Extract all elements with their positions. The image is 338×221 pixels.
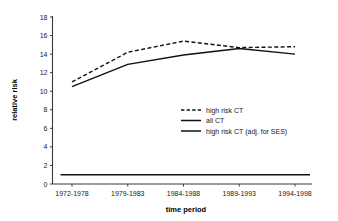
y-tick-label: 12 xyxy=(40,69,48,76)
y-tick-label: 10 xyxy=(40,88,48,95)
y-axis-title: relative risk xyxy=(10,78,19,121)
y-tick-label: 18 xyxy=(40,14,48,21)
legend-label-2: all CT xyxy=(206,117,225,124)
y-tick-label: 14 xyxy=(40,51,48,58)
y-tick-label: 4 xyxy=(44,143,48,150)
x-axis-title: time period xyxy=(166,205,207,214)
line-chart: 024681012141618 1972-19781979-19831984-1… xyxy=(0,0,338,221)
x-tick-label: 1979-1983 xyxy=(111,190,145,197)
y-tick-label: 8 xyxy=(44,106,48,113)
chart-container: 024681012141618 1972-19781979-19831984-1… xyxy=(0,0,338,221)
x-tick-label: 1994-1998 xyxy=(278,190,312,197)
y-tick-label: 2 xyxy=(44,162,48,169)
x-tick-label: 1972-1978 xyxy=(55,190,89,197)
x-tick-label: 1984-1988 xyxy=(167,190,201,197)
y-tick-label: 6 xyxy=(44,125,48,132)
legend-label-1: high risk CT xyxy=(206,107,244,115)
y-tick-label: 0 xyxy=(44,181,48,188)
plot-background xyxy=(0,0,338,221)
y-tick-label: 16 xyxy=(40,32,48,39)
legend-label-3: high risk CT (adj. for SES) xyxy=(206,128,287,136)
x-tick-label: 1989-1993 xyxy=(223,190,257,197)
